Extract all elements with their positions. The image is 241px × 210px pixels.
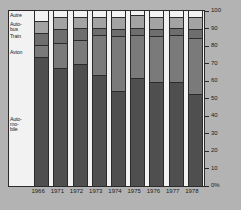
y-tick-mark	[205, 151, 209, 152]
bar-segment-1975-automobile	[131, 79, 144, 186]
bar-segment-1972-autre	[74, 11, 87, 18]
legend-label-automobile: Auto- mo- bile	[10, 117, 34, 133]
bar-segment-1978-automobile	[189, 95, 202, 186]
y-tick-label: 100	[211, 7, 221, 13]
bar-segment-1971-autre	[54, 11, 67, 18]
y-tick-mark	[205, 186, 209, 187]
x-axis: 196619711972197319741975197619771978	[32, 188, 205, 200]
bar-1976	[149, 11, 164, 186]
bar-1974	[111, 11, 126, 186]
bar-segment-1977-avion	[170, 36, 183, 83]
stacked-bars-area	[32, 11, 205, 186]
bar-segment-1975-avion	[131, 36, 144, 80]
bar-segment-1978-avion	[189, 39, 202, 95]
y-tick-label: 50	[211, 95, 218, 101]
y-tick-label: 0%	[211, 182, 220, 188]
bar-segment-1973-autre	[93, 11, 106, 18]
bar-segment-1978-train	[189, 30, 202, 39]
y-tick-label: 70	[211, 60, 218, 66]
chart-legend: AutreAuto- busTrainAvionAuto- mo- bile	[9, 11, 32, 186]
bar-segment-1973-automobile	[93, 76, 106, 186]
bar-segment-1976-autobus	[150, 18, 163, 30]
bar-segment-1971-train	[54, 30, 67, 44]
bar-segment-1975-train	[131, 29, 144, 36]
y-tick-mark	[205, 133, 209, 134]
y-tick-label: 40	[211, 112, 218, 118]
bar-1972	[73, 11, 88, 186]
bar-1975	[130, 11, 145, 186]
bar-1978	[188, 11, 203, 186]
bar-segment-1975-autobus	[131, 16, 144, 28]
bar-1966	[34, 11, 49, 186]
y-tick-label: 60	[211, 77, 218, 83]
bar-1977	[169, 11, 184, 186]
bar-segment-1974-autobus	[112, 18, 125, 30]
bar-segment-1966-autobus	[35, 22, 48, 34]
bar-segment-1971-autobus	[54, 18, 67, 30]
legend-label-avion: Avion	[10, 50, 34, 55]
legend-label-autre: Autre	[10, 13, 34, 18]
bar-segment-1977-autobus	[170, 18, 183, 29]
y-tick-label: 30	[211, 130, 218, 136]
bar-segment-1971-automobile	[54, 69, 67, 186]
legend-label-autobus: Auto- bus	[10, 22, 34, 33]
bar-segment-1976-avion	[150, 37, 163, 83]
bar-segment-1974-autre	[112, 11, 125, 18]
bar-segment-1972-train	[74, 29, 87, 41]
legend-label-train: Train	[10, 34, 34, 39]
bar-1973	[92, 11, 107, 186]
bar-segment-1966-autre	[35, 11, 48, 22]
bar-segment-1966-avion	[35, 46, 48, 58]
y-tick-mark	[205, 63, 209, 64]
bar-segment-1973-autobus	[93, 18, 106, 29]
bar-1971	[53, 11, 68, 186]
y-tick-mark	[205, 81, 209, 82]
y-tick-label: 20	[211, 147, 218, 153]
bar-segment-1977-autre	[170, 11, 183, 18]
bar-segment-1976-autre	[150, 11, 163, 18]
y-tick-mark	[205, 168, 209, 169]
bar-segment-1971-avion	[54, 44, 67, 69]
y-tick-label: 10	[211, 165, 218, 171]
bar-segment-1978-autre	[189, 11, 202, 18]
bar-segment-1976-train	[150, 30, 163, 37]
y-tick-mark	[205, 46, 209, 47]
bar-segment-1973-avion	[93, 36, 106, 76]
y-tick-mark	[205, 28, 209, 29]
x-tick-label-1978: 1978	[181, 188, 203, 195]
bar-segment-1976-automobile	[150, 83, 163, 186]
bar-segment-1972-automobile	[74, 65, 87, 186]
bar-segment-1978-autobus	[189, 18, 202, 30]
chart-figure: AutreAuto- busTrainAvionAuto- mo- bile 0…	[0, 0, 241, 210]
y-axis: 0%102030405060708090100	[205, 11, 241, 186]
bar-segment-1975-autre	[131, 11, 144, 16]
y-tick-mark	[205, 116, 209, 117]
y-tick-label: 90	[211, 25, 218, 31]
bar-segment-1974-train	[112, 30, 125, 37]
bar-segment-1977-train	[170, 29, 183, 36]
bar-segment-1973-train	[93, 29, 106, 36]
bar-segment-1966-train	[35, 34, 48, 46]
bar-segment-1972-avion	[74, 41, 87, 66]
y-tick-label: 80	[211, 42, 218, 48]
bar-segment-1974-automobile	[112, 92, 125, 187]
bar-segment-1974-avion	[112, 37, 125, 91]
bar-segment-1966-automobile	[35, 58, 48, 186]
y-tick-mark	[205, 98, 209, 99]
y-tick-mark	[205, 11, 209, 12]
bar-segment-1977-automobile	[170, 83, 183, 186]
bar-segment-1972-autobus	[74, 18, 87, 29]
